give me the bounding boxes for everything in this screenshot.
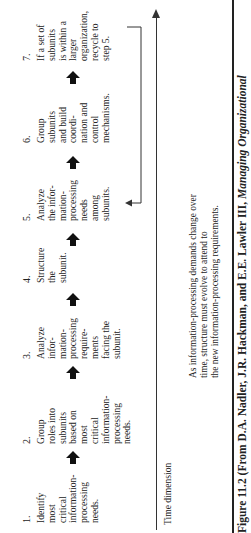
- feedback-line: [127, 27, 141, 203]
- time-axis-line: [156, 14, 157, 530]
- feedback-arrowhead-icon: [125, 200, 132, 207]
- figure-caption: Figure 11.2 (From D.A. Nadler, J.R. Hack…: [236, 75, 248, 533]
- caption-rule: [232, 0, 234, 533]
- rotated-figure-page: 1. 2. 3. 4. 5. 6. 7. Identify most criti…: [0, 0, 251, 533]
- caption-source: (From D.A. Nadler, J.R. Hackman, and E.E…: [236, 202, 248, 476]
- figure-label: Figure 11.2: [236, 478, 248, 533]
- time-dimension-label: Time dimension: [162, 463, 173, 525]
- caption-book-title: Managing Organizational: [236, 75, 248, 199]
- evolution-note: As information-processing demands change…: [188, 194, 221, 378]
- time-axis-arrowhead-icon: [152, 9, 160, 18]
